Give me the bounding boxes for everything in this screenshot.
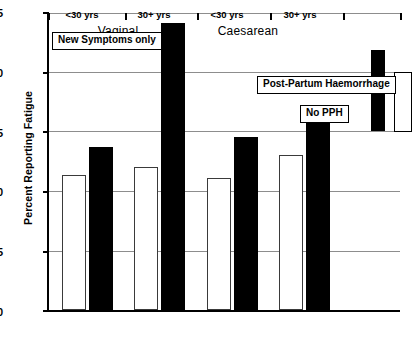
annotation-no-pph: No PPH — [300, 105, 349, 123]
x-label-caesarean-under30: <30 yrs — [187, 9, 267, 20]
bar-no-pph-caesarean-under30 — [207, 178, 231, 310]
x-label-vaginal-under30: <30 yrs — [42, 9, 122, 20]
annotation-new-symptoms: New Symptoms only — [52, 32, 162, 50]
annotation-post-partum-haemorrhage: Post-Partum Haemorrhage — [257, 76, 396, 94]
bar-no-pph-caesarean-over30 — [279, 155, 303, 311]
bar-no-pph-vaginal-under30 — [62, 175, 86, 310]
bar-no-pph-vaginal-over30 — [134, 167, 158, 311]
bar-pph-caesarean-over30 — [306, 113, 330, 310]
x-label-caesarean-over30: 30+ yrs — [260, 9, 340, 20]
bar-pph-vaginal-under30 — [89, 147, 113, 310]
y-tick-label-5: 5 — [0, 247, 3, 258]
bar-chart: Percent Reporting Fatigue 25 20 15 10 5 … — [0, 0, 417, 352]
gridline-20 — [49, 72, 400, 73]
y-tick-label-15: 15 — [0, 128, 3, 139]
x-tick-mark-4 — [343, 13, 345, 20]
legend-swatch-no-pph — [394, 72, 412, 132]
plot-area — [47, 13, 400, 312]
group-label-caesarean: Caesarean — [198, 24, 298, 38]
y-tick-label-20: 20 — [0, 68, 3, 79]
bar-pph-caesarean-under30 — [234, 137, 258, 310]
gridline-15 — [49, 131, 400, 132]
x-label-vaginal-over30: 30+ yrs — [114, 9, 194, 20]
bar-pph-vaginal-over30 — [161, 23, 185, 310]
y-tick-label-25: 25 — [0, 8, 3, 19]
y-axis-title: Percent Reporting Fatigue — [22, 38, 34, 278]
y-tick-mark-0 — [43, 310, 49, 312]
y-tick-label-0: 0 — [0, 307, 3, 318]
y-tick-label-10: 10 — [0, 187, 3, 198]
x-tick-mark-5 — [400, 13, 402, 20]
